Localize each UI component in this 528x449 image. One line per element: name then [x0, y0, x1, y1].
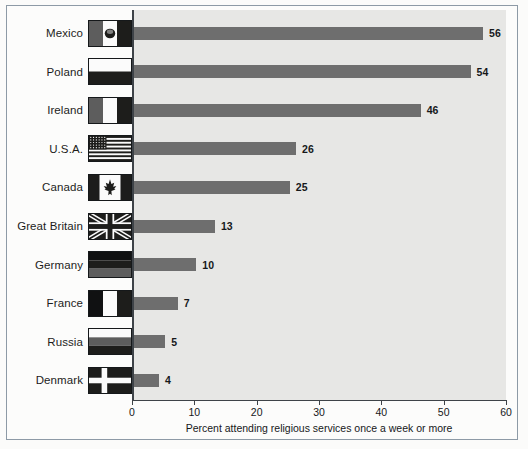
category-label: Ireland	[47, 104, 83, 116]
x-tick-label: 10	[188, 406, 200, 418]
bar-value-label: 13	[221, 220, 233, 233]
bar	[134, 258, 196, 271]
flag-ireland-icon	[88, 97, 132, 124]
category-row: Germany	[35, 249, 132, 281]
x-tick-label: 20	[251, 406, 263, 418]
category-label: Denmark	[36, 374, 83, 386]
bar-value-label: 25	[296, 181, 308, 194]
plot-area: 56544626251310754	[132, 10, 506, 400]
category-label: France	[47, 297, 83, 309]
category-label: Poland	[47, 66, 83, 78]
category-row: Mexico	[46, 17, 132, 49]
x-tick-mark	[132, 400, 133, 405]
bar-value-label: 5	[171, 335, 177, 348]
flag-great-britain-icon	[88, 213, 132, 240]
flag-france-icon	[88, 290, 132, 317]
category-label: Germany	[35, 259, 83, 271]
bar-value-label: 7	[184, 297, 190, 310]
category-label: Russia	[47, 336, 83, 348]
x-tick-mark	[444, 400, 445, 405]
x-tick-label: 40	[375, 406, 387, 418]
bar	[134, 27, 483, 40]
category-row: Poland	[47, 56, 132, 88]
x-axis-label: Percent attending religious services onc…	[132, 422, 506, 434]
x-tick-mark	[257, 400, 258, 405]
figure-root: Mexico Poland Ireland U.S.A.Canada Great…	[0, 0, 528, 449]
x-tick-label: 0	[129, 406, 135, 418]
category-row: Denmark	[36, 364, 132, 396]
category-label: Canada	[42, 181, 83, 193]
bar	[134, 104, 421, 117]
bar	[134, 220, 215, 233]
category-row: France	[47, 287, 132, 319]
category-row: Russia	[47, 326, 132, 358]
bar	[134, 142, 296, 155]
bar-value-label: 56	[489, 27, 501, 40]
category-row: Canada	[42, 171, 132, 203]
bar-value-label: 46	[427, 104, 439, 117]
x-tick-label: 50	[438, 406, 450, 418]
x-tick-label: 60	[500, 406, 512, 418]
x-tick-mark	[319, 400, 320, 405]
flag-usa-icon	[88, 135, 132, 162]
flag-germany-icon	[88, 251, 132, 278]
category-label: Great Britain	[17, 220, 83, 232]
bar-value-label: 26	[302, 142, 314, 155]
category-label-column: Mexico Poland Ireland U.S.A.Canada Great…	[6, 8, 132, 398]
flag-denmark-icon	[88, 367, 132, 394]
bar-value-label: 4	[165, 374, 171, 387]
flag-russia-icon	[88, 328, 132, 355]
bar	[134, 181, 290, 194]
category-row: Ireland	[47, 94, 132, 126]
bar-value-label: 54	[477, 65, 489, 78]
bar	[134, 374, 159, 387]
bar-value-label: 10	[202, 258, 214, 271]
category-row: Great Britain	[17, 210, 132, 242]
x-tick-mark	[506, 400, 507, 405]
category-row: U.S.A.	[49, 133, 132, 165]
flag-poland-icon	[88, 58, 132, 85]
flag-mexico-icon	[88, 20, 132, 47]
flag-canada-icon	[88, 174, 132, 201]
x-tick-label: 30	[313, 406, 325, 418]
x-tick-mark	[194, 400, 195, 405]
bar	[134, 335, 165, 348]
category-label: Mexico	[46, 27, 83, 39]
bar	[134, 297, 178, 310]
bar	[134, 65, 471, 78]
x-tick-mark	[381, 400, 382, 405]
category-label: U.S.A.	[49, 143, 83, 155]
